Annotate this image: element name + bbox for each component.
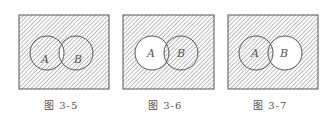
caption-3-6: 图 3-6	[148, 97, 182, 112]
figure-3-7	[228, 15, 318, 89]
caption-3-5: 图 3-5	[44, 97, 78, 112]
label-b-3-5: B	[74, 53, 83, 66]
figure-3-5	[19, 15, 109, 89]
label-a-3-7: A	[251, 47, 260, 60]
label-a-3-5: A	[41, 53, 50, 66]
label-a-3-6: A	[147, 47, 156, 60]
label-b-3-6: B	[177, 47, 186, 60]
caption-3-7: 图 3-7	[253, 97, 287, 112]
label-b-3-7: B	[280, 47, 289, 60]
figure-3-6	[123, 15, 214, 89]
